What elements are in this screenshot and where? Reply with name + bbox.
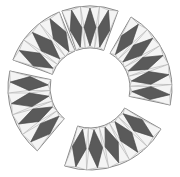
segment-left-piece: [8, 71, 64, 151]
ring-segments: [8, 6, 172, 170]
light-triangle: [108, 10, 118, 30]
segment-right-piece: [110, 17, 172, 105]
rhombus-ring-diagram: [0, 0, 180, 177]
segment-bottom-piece: [65, 108, 161, 170]
